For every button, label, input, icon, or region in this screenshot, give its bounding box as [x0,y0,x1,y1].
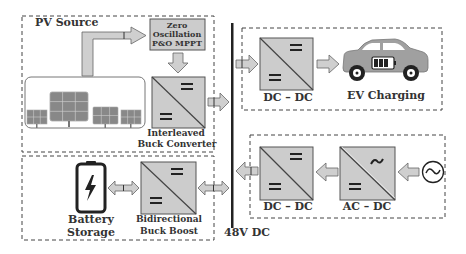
grid-dcdc-converter-block [260,147,313,200]
battery-storage-label-line2: Storage [67,226,115,239]
grid-dcdc-to-bus-arrow [236,162,258,180]
pv-source-label: PV Source [35,16,98,29]
acdc-converter-block [340,147,395,200]
mppt-label-line3: P&O MPPT [152,38,202,48]
mppt-to-converter-arrow [168,53,188,73]
acdc-label: AC – DC [343,200,392,213]
bus-to-ev-dcdc-arrow [236,55,258,73]
electric-car-icon [343,39,428,81]
solar-panel-array-icon [25,77,145,128]
interleaved-buck-converter-block [152,77,205,128]
pv-to-mppt-arrow [82,27,146,76]
dc-bus-label: 48V DC [224,226,270,239]
pv-converter-to-bus-arrow [208,93,229,111]
battery-storage-label-line1: Battery [68,213,114,226]
ev-dcdc-converter-block [260,38,313,90]
ev-charging-label: EV Charging [347,89,425,102]
battery-icon [77,161,105,212]
ac-source-to-acdc-arrow [398,163,419,181]
dc-bus-line [231,23,234,228]
battery-to-converter-arrow [108,181,139,195]
dcdc-to-ev-arrow [317,55,339,73]
ac-source-icon [423,162,444,183]
bidirectional-converter-label-line1: Bidirectional [136,214,202,224]
interleaved-converter-label-line2: Buck Converter [137,139,216,149]
acdc-to-dcdc-arrow [316,163,338,181]
grid-dcdc-label: DC – DC [263,200,313,213]
bidirectional-buck-boost-block [141,162,196,214]
ev-dcdc-label: DC – DC [263,91,313,104]
bidirectional-converter-label-line2: Buck Boost [140,226,198,236]
interleaved-converter-label-line1: Interleaved [147,128,205,138]
